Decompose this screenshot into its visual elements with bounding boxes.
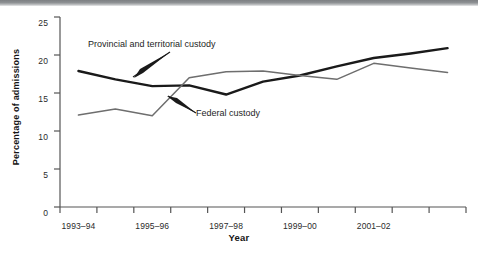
series-line-federal [78, 63, 447, 115]
data-series-layer [78, 48, 447, 116]
x-axis-title: Year [0, 232, 478, 243]
y-tick-label: 10 [26, 132, 48, 142]
y-axis-ticks [54, 17, 60, 207]
x-tick-label: 2001–02 [344, 221, 404, 231]
series-label-federal: Federal custody [196, 108, 260, 118]
leader-arrowhead-federal [167, 96, 196, 113]
y-tick-label: 5 [26, 170, 48, 180]
line-chart-plot [0, 6, 478, 254]
x-tick-label: 1997–98 [196, 221, 256, 231]
y-tick-label: 20 [26, 56, 48, 66]
y-tick-label: 0 [26, 208, 48, 218]
y-axis-title: Percentage of admissions [11, 47, 21, 167]
x-tick-label: 1999–00 [270, 221, 330, 231]
y-tick-label: 25 [26, 18, 48, 28]
x-axis-ticks [60, 207, 466, 213]
chart-figure: 0510152025 1993–941995–961997–981999–002… [0, 6, 478, 254]
series-label-provincial: Provincial and territorial custody [88, 39, 216, 49]
leader-arrowhead-provincial [134, 52, 170, 78]
x-tick-label: 1995–96 [122, 221, 182, 231]
y-tick-label: 15 [26, 94, 48, 104]
x-tick-label: 1993–94 [48, 221, 108, 231]
